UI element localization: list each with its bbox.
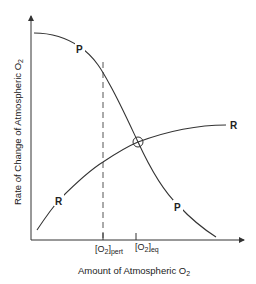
chart-canvas: P P R R [O2]pert [O2]eq Amount of Atmosp… <box>0 0 256 284</box>
y-axis-title: Rate of Change of Atmospheric O2 <box>12 59 24 205</box>
curve-r <box>37 125 226 230</box>
tick-label-pert: [O2]pert <box>95 244 123 256</box>
tick-label-eq: [O2]eq <box>135 242 159 254</box>
label-r-left: R <box>55 196 63 207</box>
label-p-upper: P <box>76 44 83 55</box>
label-r-right: R <box>230 120 238 131</box>
label-p-lower: P <box>174 202 181 213</box>
x-axis-title: Amount of Atmospheric O2 <box>78 265 190 277</box>
